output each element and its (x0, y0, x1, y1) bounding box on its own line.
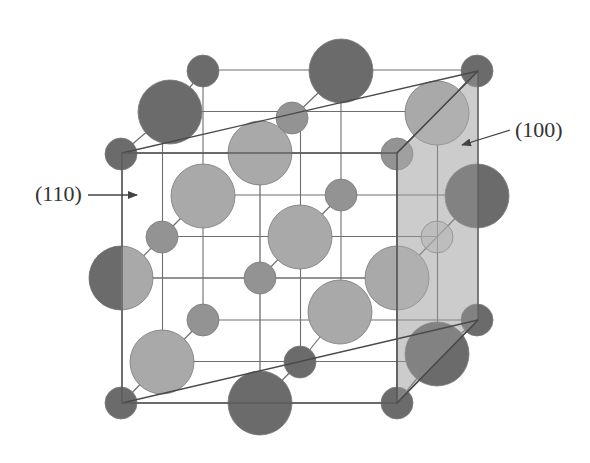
atom-front-tl (105, 138, 137, 170)
atom-back-ml (171, 164, 235, 228)
atom-front-c (244, 262, 276, 294)
plane-100-label: (100) (515, 119, 563, 141)
atom-front-ml (89, 246, 153, 310)
atom-back-tm (309, 39, 373, 103)
atom-mid-c (268, 205, 332, 269)
atom-back-bl (187, 304, 219, 336)
atom-mid-ml (146, 221, 178, 253)
crystal-unit-cell-diagram (0, 0, 590, 463)
atom-mid-bl (130, 330, 194, 394)
plane-110-label: (110) (35, 183, 82, 205)
atom-back-tl (187, 55, 219, 87)
atom-mid-tl (138, 80, 202, 144)
atom-back-bm (308, 280, 372, 344)
atom-back-c (325, 179, 357, 211)
